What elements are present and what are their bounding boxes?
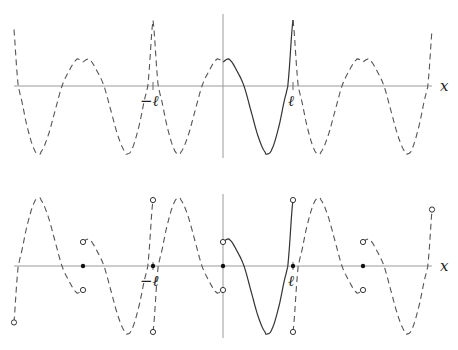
filled-dot-marker [81,264,85,268]
open-circle-marker [290,329,295,334]
filled-dot-marker [291,264,295,268]
open-circle-marker [80,287,85,292]
bottom-neg-l-label: −ℓ [140,272,159,290]
top-panel-even-extension: x −ℓ ℓ [14,14,449,158]
top-neg-l-label: −ℓ [140,92,159,110]
open-circle-marker [360,239,365,244]
filled-dot-marker [151,264,155,268]
filled-dot-marker [221,264,225,268]
open-circle-marker [220,239,225,244]
top-x-axis-label: x [440,77,449,95]
bottom-extension-segment [14,198,83,323]
top-l-label: ℓ [288,92,294,110]
open-circle-marker [220,287,225,292]
open-circle-marker [429,207,434,212]
bottom-extension-segment [293,198,363,332]
bottom-original-curve [223,200,293,334]
bottom-extension-segment [83,200,153,334]
figure: x −ℓ ℓ x −ℓ ℓ [0,0,458,350]
open-circle-marker [360,287,365,292]
bottom-x-axis-label: x [440,257,449,275]
top-original-curve [223,20,293,154]
bottom-panel-odd-extension: x −ℓ ℓ [11,194,449,338]
open-circle-marker [80,239,85,244]
open-circle-marker [11,320,16,325]
bottom-extension-segment [363,209,432,334]
filled-dot-marker [361,264,365,268]
open-circle-marker [290,197,295,202]
bottom-extension-segment [153,198,223,332]
bottom-l-label: ℓ [288,272,294,290]
open-circle-marker [150,329,155,334]
open-circle-marker [150,197,155,202]
